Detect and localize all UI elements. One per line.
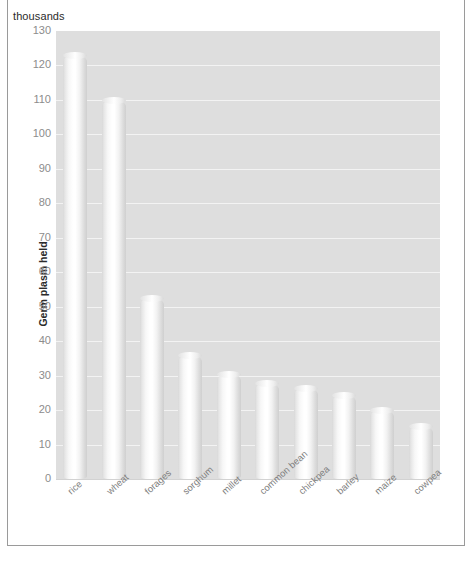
y-axis-tick-label: 30 [11,369,51,381]
chart-figure: thousands Germ plasm held 13012011010090… [0,0,473,562]
frame-border-right [464,0,465,546]
y-axis-tick-label: 40 [11,334,51,346]
frame-border-bottom [7,545,465,546]
bar [255,383,279,479]
bar [63,55,87,479]
y-axis-tick-label: 10 [11,438,51,450]
unit-label: thousands [13,10,65,22]
bar [217,374,241,479]
bar [332,395,356,479]
gridline [56,65,440,66]
y-axis-tick-label: 60 [11,265,51,277]
bar-top-cap [102,97,126,104]
frame-border-left [7,0,8,546]
bar-top-cap [294,385,318,392]
y-axis-tick-label: 110 [11,93,51,105]
bar-top-cap [255,380,279,387]
y-axis-tick-label: 120 [11,58,51,70]
bar [178,355,202,479]
y-axis-tick-label: 0 [11,472,51,484]
bar-top-cap [178,352,202,359]
y-axis-tick-label: 80 [11,196,51,208]
bar-top-cap [217,371,241,378]
bar [102,100,126,479]
bar [370,410,394,479]
bar [140,298,164,479]
bar-top-cap [140,295,164,302]
bar-top-cap [63,52,87,59]
y-axis-tick-label: 90 [11,162,51,174]
x-axis-tick-label: rice [66,478,85,496]
y-axis-tick-label: 50 [11,300,51,312]
bar-top-cap [370,407,394,414]
y-axis-tick-label: 100 [11,127,51,139]
y-axis-tick-label: 130 [11,24,51,36]
y-axis-tick-label: 70 [11,231,51,243]
bar-top-cap [332,392,356,399]
y-axis-tick-label: 20 [11,403,51,415]
bar-top-cap [409,423,433,430]
